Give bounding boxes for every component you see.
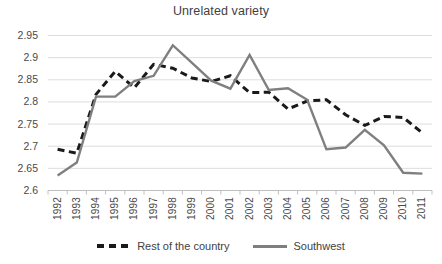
x-axis-tick-label: 1996 bbox=[129, 197, 139, 220]
x-axis-tick-label: 2003 bbox=[264, 197, 274, 220]
y-axis-tick-label: 2.65 bbox=[4, 163, 38, 173]
x-axis-tick-label: 1992 bbox=[53, 197, 63, 220]
x-axis-tick-label: 2000 bbox=[206, 197, 216, 220]
x-axis-tick-label: 1997 bbox=[149, 197, 159, 220]
x-axis-tick-label: 2006 bbox=[321, 197, 331, 220]
chart-container: Unrelated variety 2.62.652.72.752.82.852… bbox=[0, 0, 442, 264]
x-axis-tick-label: 2010 bbox=[398, 197, 408, 220]
y-axis-tick-label: 2.85 bbox=[4, 74, 38, 84]
x-axis-tick-label: 1994 bbox=[91, 197, 101, 220]
legend-label: Rest of the country bbox=[137, 240, 229, 252]
y-axis-tick-label: 2.9 bbox=[4, 52, 38, 62]
series-line-2 bbox=[58, 45, 423, 175]
y-axis-tick-label: 2.95 bbox=[4, 30, 38, 40]
x-axis-tick-label: 2011 bbox=[417, 197, 427, 219]
series-lines-group bbox=[58, 45, 423, 175]
x-axis-tick-label: 1995 bbox=[110, 197, 120, 220]
x-axis-tick-label: 2002 bbox=[245, 197, 255, 220]
y-axis-tick-label: 2.6 bbox=[4, 185, 38, 195]
plot-area bbox=[0, 0, 442, 264]
x-axis-tick-label: 2004 bbox=[283, 197, 293, 220]
x-axis-tick-label: 1999 bbox=[187, 197, 197, 220]
x-axis-tick-label: 1998 bbox=[168, 197, 178, 220]
x-axis-tick-label: 1993 bbox=[72, 197, 82, 220]
x-axis-tick-label: 2001 bbox=[225, 197, 235, 220]
gridlines-group bbox=[48, 36, 432, 191]
legend-label: Southwest bbox=[293, 240, 344, 252]
y-axis-tick-label: 2.8 bbox=[4, 96, 38, 106]
y-axis-tick-label: 2.75 bbox=[4, 119, 38, 129]
legend-entry-1[interactable]: Rest of the country bbox=[97, 240, 229, 252]
x-axis-tick-label: 2007 bbox=[341, 197, 351, 220]
x-axis-tick-label: 2009 bbox=[379, 197, 389, 220]
legend-entry-2[interactable]: Southwest bbox=[253, 240, 344, 252]
dashed-line-swatch bbox=[97, 244, 131, 248]
y-axis-tick-label: 2.7 bbox=[4, 141, 38, 151]
x-axis-tick-label: 2005 bbox=[302, 197, 312, 220]
solid-line-swatch bbox=[253, 245, 287, 248]
x-tick-marks-group bbox=[48, 191, 432, 195]
chart-legend: Rest of the countrySouthwest bbox=[0, 240, 442, 252]
series-line-1 bbox=[58, 64, 423, 153]
x-axis-tick-label: 2008 bbox=[360, 197, 370, 220]
